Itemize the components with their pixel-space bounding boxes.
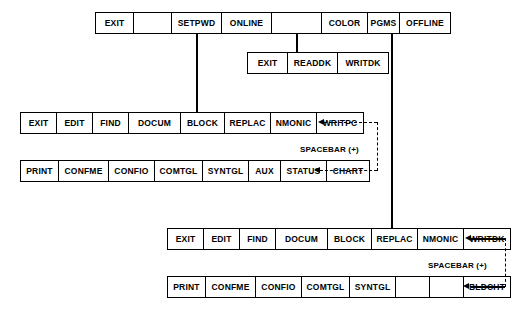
online-print-cell-chart[interactable]: CHART: [327, 161, 369, 181]
spacebar-lower-label: SPACEBAR (+): [428, 261, 487, 270]
color-cell-exit[interactable]: EXIT: [248, 53, 288, 73]
offline-print-cell-confio[interactable]: CONFIO: [256, 277, 302, 297]
menu-cell-blank-2[interactable]: [272, 13, 322, 33]
menu-cell-blank-1[interactable]: [134, 13, 172, 33]
online-edit-cell-nmonic[interactable]: NMONIC: [271, 113, 317, 133]
spacebar-upper-right-dash: [377, 122, 378, 171]
online-print-cell-confme[interactable]: CONFME: [59, 161, 109, 181]
online-print-cell-comtgl[interactable]: COMTGL: [155, 161, 203, 181]
offline-print-cell-confme[interactable]: CONFME: [206, 277, 256, 297]
spacebar-upper-arrow-to-writpc: [318, 119, 324, 125]
online-edit-cell-block[interactable]: BLOCK: [181, 113, 225, 133]
diagram-canvas: EXIT SETPWD ONLINE COLOR PGMS OFFLINE EX…: [0, 0, 525, 316]
offline-print-cell-print[interactable]: PRINT: [168, 277, 206, 297]
offline-edit-cell-replac[interactable]: REPLAC: [372, 229, 418, 249]
offline-edit-menu-row[interactable]: EXIT EDIT FIND DOCUM BLOCK REPLAC NMONIC…: [167, 228, 511, 250]
online-print-cell-aux[interactable]: AUX: [249, 161, 281, 181]
spacebar-lower-arrow-to-writdk: [465, 235, 471, 241]
color-submenu-row[interactable]: EXIT READDK WRITDK: [247, 52, 389, 74]
spacebar-upper-bottom-dash: [320, 170, 377, 171]
offline-print-menu-row[interactable]: PRINT CONFME CONFIO COMTGL SYNTGL BLDCHT: [167, 276, 511, 298]
offline-print-cell-comtgl[interactable]: COMTGL: [302, 277, 350, 297]
connector-offline-vertical: [391, 34, 393, 228]
offline-edit-cell-nmonic[interactable]: NMONIC: [418, 229, 464, 249]
online-edit-cell-exit[interactable]: EXIT: [21, 113, 57, 133]
menu-cell-color[interactable]: COLOR: [322, 13, 368, 33]
color-cell-writdk[interactable]: WRITDK: [338, 53, 388, 73]
online-print-cell-status[interactable]: STATUS: [281, 161, 327, 181]
spacebar-lower-arrow-to-bldcht: [463, 283, 469, 289]
spacebar-lower-top-line: [471, 238, 505, 240]
spacebar-upper-label: SPACEBAR (+): [300, 145, 359, 154]
spacebar-upper-arrow-to-chart: [314, 167, 320, 173]
online-edit-cell-replac[interactable]: REPLAC: [225, 113, 271, 133]
offline-print-cell-syntgl[interactable]: SYNTGL: [350, 277, 396, 297]
connector-online-vertical: [196, 34, 198, 112]
menu-cell-pgms[interactable]: PGMS: [368, 13, 400, 33]
menu-cell-offline[interactable]: OFFLINE: [400, 13, 450, 33]
offline-edit-cell-block[interactable]: BLOCK: [328, 229, 372, 249]
connector-color-vertical: [296, 34, 298, 52]
spacebar-lower-right-dash: [505, 238, 506, 287]
online-edit-cell-docum[interactable]: DOCUM: [129, 113, 181, 133]
offline-print-cell-blank-2[interactable]: [430, 277, 464, 297]
menu-cell-setpwd[interactable]: SETPWD: [172, 13, 222, 33]
main-menu-row[interactable]: EXIT SETPWD ONLINE COLOR PGMS OFFLINE: [95, 12, 451, 34]
spacebar-upper-top-dash: [324, 122, 377, 123]
menu-cell-online[interactable]: ONLINE: [222, 13, 272, 33]
online-edit-cell-find[interactable]: FIND: [93, 113, 129, 133]
offline-edit-cell-docum[interactable]: DOCUM: [276, 229, 328, 249]
online-print-cell-confio[interactable]: CONFIO: [109, 161, 155, 181]
online-print-cell-syntgl[interactable]: SYNTGL: [203, 161, 249, 181]
spacebar-lower-bottom-line: [471, 286, 505, 288]
offline-edit-cell-exit[interactable]: EXIT: [168, 229, 204, 249]
menu-cell-exit[interactable]: EXIT: [96, 13, 134, 33]
offline-print-cell-blank-1[interactable]: [396, 277, 430, 297]
online-edit-menu-row[interactable]: EXIT EDIT FIND DOCUM BLOCK REPLAC NMONIC…: [20, 112, 364, 134]
offline-edit-cell-edit[interactable]: EDIT: [204, 229, 240, 249]
online-print-cell-print[interactable]: PRINT: [21, 161, 59, 181]
online-edit-cell-edit[interactable]: EDIT: [57, 113, 93, 133]
offline-edit-cell-find[interactable]: FIND: [240, 229, 276, 249]
color-cell-readdk[interactable]: READDK: [288, 53, 338, 73]
